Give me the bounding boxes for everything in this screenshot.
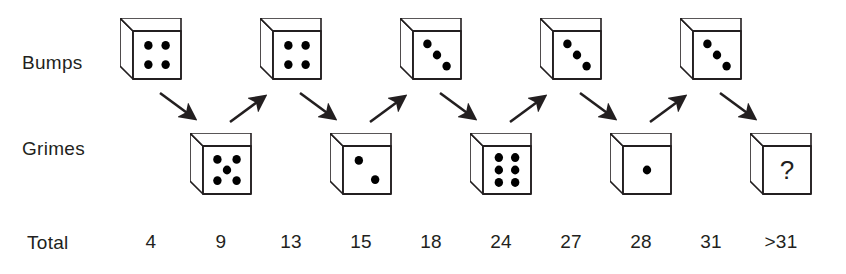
total-value-6: 24	[471, 231, 531, 253]
arrow-down-right-5	[436, 88, 482, 122]
total-value-5: 18	[401, 231, 461, 253]
arrow-up-right-2	[226, 92, 272, 126]
total-value-10: >31	[751, 231, 811, 253]
arrow-down-right-1	[156, 88, 202, 122]
bumps-die-3	[400, 18, 462, 80]
grimes-die-4	[610, 133, 672, 195]
svg-text:?: ?	[780, 155, 794, 185]
grimes-die-1	[190, 133, 252, 195]
total-value-2: 9	[191, 231, 251, 253]
total-value-1: 4	[121, 231, 181, 253]
grimes-die-2	[330, 133, 392, 195]
row-label-grimes: Grimes	[22, 138, 85, 160]
bumps-die-1	[120, 18, 182, 80]
total-value-3: 13	[261, 231, 321, 253]
bumps-die-4	[540, 18, 602, 80]
arrow-up-right-6	[506, 92, 552, 126]
row-label-bumps: Bumps	[22, 52, 83, 74]
grimes-die-3	[470, 133, 532, 195]
arrow-up-right-8	[646, 92, 692, 126]
dice-sequence-diagram: Bumps Grimes Total ? 4913151824272831>31	[0, 0, 846, 274]
total-value-9: 31	[681, 231, 741, 253]
arrow-down-right-7	[576, 88, 622, 122]
total-value-8: 28	[611, 231, 671, 253]
row-label-total: Total	[27, 232, 69, 254]
arrow-down-right-3	[296, 88, 342, 122]
grimes-die-5: ?	[750, 133, 812, 195]
arrow-up-right-4	[366, 92, 412, 126]
arrow-down-right-9	[716, 88, 762, 122]
bumps-die-5	[680, 18, 742, 80]
total-value-4: 15	[331, 231, 391, 253]
total-value-7: 27	[541, 231, 601, 253]
bumps-die-2	[260, 18, 322, 80]
